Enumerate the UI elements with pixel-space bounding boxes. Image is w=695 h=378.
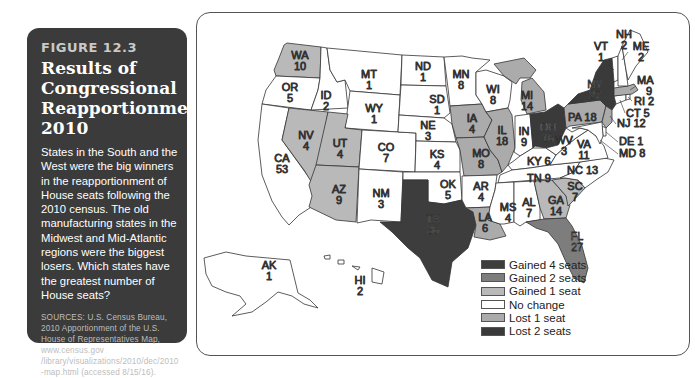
- legend-item-gained1: Gained 1 seat: [481, 285, 586, 298]
- svg-text:8: 8: [478, 158, 484, 170]
- svg-text:4: 4: [478, 191, 484, 203]
- svg-text:5: 5: [445, 189, 451, 201]
- legend-swatch: [481, 327, 505, 336]
- legend-item-lost2: Lost 2 seats: [481, 324, 586, 337]
- svg-text:4: 4: [337, 148, 343, 160]
- legend-swatch: [481, 287, 505, 296]
- svg-text:3: 3: [378, 198, 384, 210]
- svg-text:1: 1: [434, 104, 440, 116]
- svg-text:4: 4: [505, 212, 511, 224]
- svg-text:36: 36: [427, 224, 439, 236]
- svg-text:14: 14: [521, 100, 533, 112]
- svg-text:2: 2: [621, 39, 627, 51]
- svg-text:9: 9: [521, 136, 527, 148]
- svg-text:4: 4: [469, 123, 475, 135]
- svg-text:11: 11: [578, 149, 589, 161]
- svg-text:1: 1: [371, 113, 377, 125]
- svg-text:7: 7: [383, 152, 389, 164]
- label-de: DE 1: [619, 135, 643, 147]
- label-tn: TN 9: [527, 172, 551, 184]
- svg-text:9: 9: [336, 194, 342, 206]
- svg-text:2: 2: [323, 100, 329, 112]
- svg-text:6: 6: [482, 222, 488, 234]
- svg-text:1: 1: [420, 71, 426, 83]
- svg-text:53: 53: [276, 163, 288, 175]
- svg-text:2: 2: [638, 51, 644, 63]
- label-md: MD 8: [619, 147, 645, 159]
- svg-text:14: 14: [550, 205, 562, 217]
- svg-text:5: 5: [287, 92, 293, 104]
- svg-text:4: 4: [303, 140, 309, 152]
- legend-swatch: [481, 273, 505, 282]
- svg-text:4: 4: [434, 159, 440, 171]
- legend-item-gained4: Gained 4 seats: [481, 258, 586, 271]
- svg-text:8: 8: [490, 94, 496, 106]
- svg-text:9: 9: [646, 85, 652, 97]
- label-pa: PA 18: [568, 111, 597, 123]
- svg-text:2: 2: [357, 285, 363, 297]
- svg-text:8: 8: [458, 79, 464, 91]
- svg-text:10: 10: [294, 60, 306, 72]
- legend-swatch: [481, 313, 505, 322]
- svg-text:1: 1: [598, 51, 604, 63]
- svg-text:3: 3: [561, 145, 567, 157]
- legend-swatch: [481, 260, 505, 269]
- legend-item-nochange: No change: [481, 298, 586, 311]
- label-ky: KY 6: [527, 155, 551, 167]
- svg-text:18: 18: [496, 135, 508, 147]
- svg-text:7: 7: [526, 207, 532, 219]
- svg-text:16: 16: [542, 132, 554, 144]
- svg-text:1: 1: [366, 79, 372, 91]
- legend-swatch: [481, 300, 505, 309]
- legend-item-gained2: Gained 2 seats: [481, 271, 586, 284]
- svg-text:27: 27: [571, 241, 583, 253]
- svg-text:1: 1: [266, 270, 272, 282]
- label-ct: CT 5: [626, 107, 650, 119]
- svg-text:27: 27: [589, 89, 601, 101]
- legend-item-lost1: Lost 1 seat: [481, 311, 586, 324]
- svg-text:3: 3: [425, 130, 431, 142]
- svg-text:7: 7: [572, 191, 578, 203]
- label-nc: NC 13: [567, 164, 598, 176]
- map-legend: Gained 4 seats Gained 2 seats Gained 1 s…: [481, 258, 586, 338]
